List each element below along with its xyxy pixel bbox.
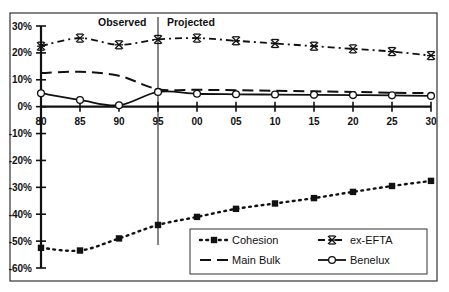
data-point-benelux: [428, 93, 435, 100]
x-tick-label: 25: [386, 116, 398, 127]
data-point-ex-efta: [115, 41, 123, 49]
x-tick-label: 10: [269, 116, 281, 127]
data-point-ex-efta: [232, 37, 240, 45]
legend-swatch-marker: [211, 237, 217, 243]
data-point-benelux: [194, 90, 201, 97]
data-point-ex-efta: [76, 34, 84, 42]
y-tick-label: 20%: [12, 47, 32, 58]
data-point-cohesion: [272, 200, 278, 206]
legend-label: Benelux: [350, 254, 390, 266]
legend-item-ex-efta: ex-EFTA: [318, 234, 393, 246]
data-point-benelux: [350, 92, 357, 99]
data-point-cohesion: [155, 222, 161, 228]
y-tick-label: 0%: [18, 101, 33, 112]
x-tick-label: 30: [425, 116, 437, 127]
data-point-ex-efta: [388, 48, 396, 56]
y-tick-label: -30%: [9, 182, 32, 193]
x-tick-label: 05: [230, 116, 242, 127]
data-point-cohesion: [194, 214, 200, 220]
y-tick-label: -10%: [9, 128, 32, 139]
observed-label: Observed: [98, 16, 146, 28]
data-point-cohesion: [233, 206, 239, 212]
legend-label: ex-EFTA: [350, 234, 393, 246]
data-point-ex-efta: [427, 52, 435, 60]
series-main-bulk: [41, 72, 431, 94]
x-tick-label: 80: [35, 116, 47, 127]
data-point-benelux: [155, 88, 162, 95]
data-point-cohesion: [77, 247, 83, 253]
y-tick-label: 30%: [12, 21, 32, 32]
line-chart: Observed Projected 30%20%10%0%-10%-20%-3…: [0, 0, 449, 292]
chart-container: Observed Projected 30%20%10%0%-10%-20%-3…: [0, 0, 449, 292]
y-tick-label: -40%: [9, 209, 32, 220]
series-ex-efta: [37, 34, 435, 59]
x-tick-label: 15: [308, 116, 320, 127]
series-line-main-bulk: [41, 72, 431, 94]
data-series: [37, 34, 435, 254]
data-point-benelux: [38, 90, 45, 97]
y-tick-label: 10%: [12, 74, 32, 85]
data-point-benelux: [77, 97, 84, 104]
legend-label: Main Bulk: [232, 254, 281, 266]
data-point-ex-efta: [349, 45, 357, 53]
data-point-ex-efta: [271, 39, 279, 47]
x-tick-label: 20: [347, 116, 359, 127]
data-point-benelux: [311, 91, 318, 98]
data-point-benelux: [116, 102, 123, 109]
data-point-cohesion: [311, 195, 317, 201]
data-point-benelux: [272, 91, 279, 98]
data-point-benelux: [233, 91, 240, 98]
legend: Cohesionex-EFTAMain BulkBenelux: [190, 229, 427, 274]
data-point-cohesion: [38, 245, 44, 251]
data-point-cohesion: [428, 178, 434, 184]
data-point-cohesion: [389, 183, 395, 189]
data-point-ex-efta: [310, 42, 318, 50]
y-tick-label: -20%: [9, 155, 32, 166]
legend-swatch-marker: [329, 257, 336, 264]
y-tick-label: -50%: [9, 236, 32, 247]
data-point-benelux: [389, 92, 396, 99]
projected-label: Projected: [167, 16, 215, 28]
data-point-ex-efta: [193, 34, 201, 42]
data-point-cohesion: [350, 189, 356, 195]
x-tick-label: 85: [74, 116, 86, 127]
y-tick-label: -60%: [9, 263, 32, 274]
legend-label: Cohesion: [232, 234, 278, 246]
x-tick-label: 95: [152, 116, 164, 127]
data-point-cohesion: [116, 235, 122, 241]
x-tick-label: 90: [113, 116, 125, 127]
x-tick-label: 00: [191, 116, 203, 127]
